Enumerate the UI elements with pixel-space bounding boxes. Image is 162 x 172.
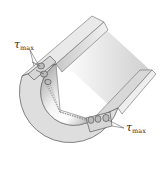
tau-max-label-bottom: τmax — [126, 121, 146, 135]
tau-max-label-top: τmax — [14, 38, 34, 52]
stress-elements-bottom — [86, 112, 112, 132]
hollow-shaft-diagram: τmax τmax — [0, 0, 162, 172]
